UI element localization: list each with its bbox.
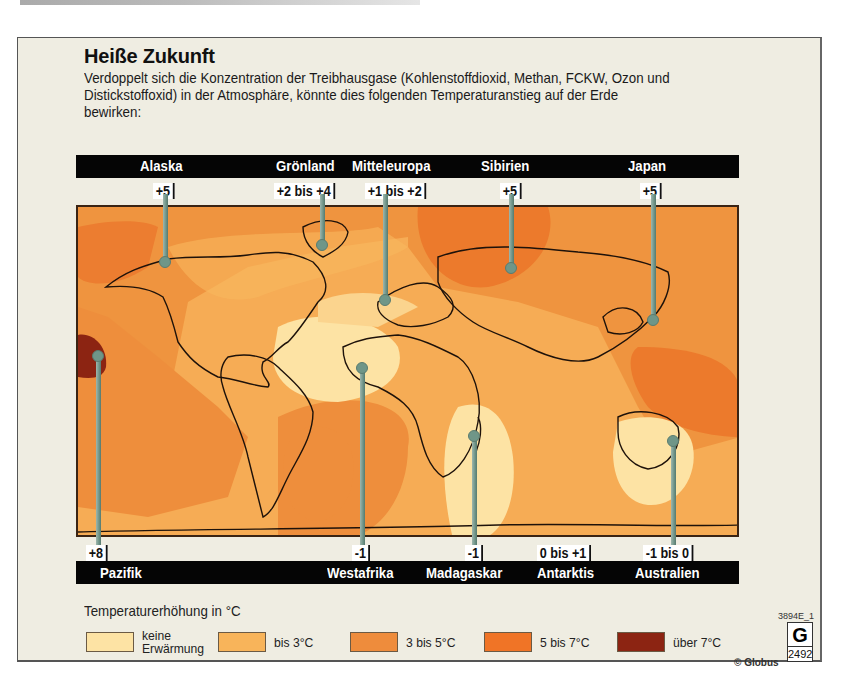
- legend-label: keine Erwärmung: [142, 629, 204, 655]
- legend-item-ueber-7: über 7°C: [617, 627, 726, 657]
- legend-swatch: [350, 632, 398, 652]
- value-tag-antarktis: 0 bis +1: [537, 545, 591, 561]
- value-tag-groenland: +2 bis +4: [274, 183, 335, 199]
- legend-title: Temperaturerhöhung in °C: [84, 603, 241, 619]
- region-name-australien: Australien: [635, 564, 700, 581]
- region-name-alaska: Alaska: [140, 157, 183, 174]
- world-temperature-map: [76, 205, 739, 537]
- page-subtitle: Verdoppelt sich die Konzentration der Tr…: [84, 70, 673, 121]
- region-name-japan: Japan: [628, 157, 666, 174]
- legend-label: 5 bis 7°C: [540, 636, 589, 649]
- cropped-text-strip: [20, 0, 420, 5]
- globus-logo: G 2492: [787, 622, 813, 662]
- page-title: Heiße Zukunft: [84, 45, 215, 68]
- copyright: © Globus: [734, 657, 779, 668]
- globus-logo-icon: G: [788, 623, 812, 647]
- region-name-westafrika: Westafrika: [327, 564, 394, 581]
- legend-label: 3 bis 5°C: [406, 636, 455, 649]
- legend-label: bis 3°C: [274, 636, 313, 649]
- legend-item-5-bis-7: 5 bis 7°C: [484, 627, 595, 657]
- legend-label: über 7°C: [673, 636, 721, 649]
- legend-item-bis-3: bis 3°C: [218, 627, 318, 657]
- legend-swatch: [218, 632, 266, 652]
- region-name-groenland: Grönland: [276, 157, 335, 174]
- legend-swatch: [617, 632, 665, 652]
- bottom-region-bar: Pazifik Westafrika Madagaskar Antarktis …: [76, 561, 739, 584]
- legend-swatch: [484, 632, 532, 652]
- value-tag-pazifik: +8: [86, 545, 108, 561]
- value-tag-mitteleuropa: +1 bis +2: [365, 183, 426, 199]
- value-tag-westafrika: -1: [352, 545, 370, 561]
- legend-item-3-bis-5: 3 bis 5°C: [350, 627, 461, 657]
- region-name-sibirien: Sibirien: [481, 157, 529, 174]
- legend-swatch: [86, 632, 134, 652]
- region-name-mitteleuropa: Mitteleuropa: [352, 157, 430, 174]
- region-name-pazifik: Pazifik: [100, 564, 142, 581]
- map-graphic: [78, 207, 739, 537]
- graphic-code: 3894E_1: [778, 611, 814, 621]
- legend-item-none: keine Erwärmung: [86, 627, 211, 657]
- region-name-madagaskar: Madagaskar: [426, 564, 502, 581]
- value-tag-madagaskar: -1: [465, 545, 483, 561]
- graphic-number: 2492: [788, 646, 812, 661]
- value-tag-australien: -1 bis 0: [643, 545, 694, 561]
- region-name-antarktis: Antarktis: [537, 564, 594, 581]
- top-region-bar: Alaska Grönland Mitteleuropa Sibirien Ja…: [76, 155, 739, 178]
